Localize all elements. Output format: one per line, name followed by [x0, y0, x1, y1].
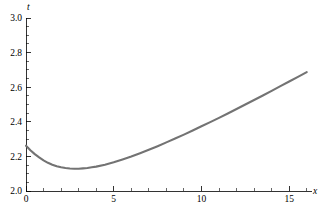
- chart-canvas: 051015 2.02.22.42.62.83.0 x t: [0, 0, 324, 214]
- x-tick-label: 15: [284, 194, 294, 204]
- y-tick-label: 2.4: [10, 117, 22, 127]
- y-tick-label: 3.0: [10, 13, 22, 23]
- x-axis-tick-labels: 051015: [24, 194, 295, 204]
- y-tick-label: 2.8: [10, 48, 22, 58]
- y-tick-label: 2.2: [10, 152, 22, 162]
- y-axis-title: t: [27, 2, 30, 12]
- x-tick-label: 0: [24, 194, 29, 204]
- x-axis-ticks: [26, 186, 307, 191]
- y-tick-label: 2.0: [10, 186, 22, 196]
- x-axis-title: x: [312, 186, 318, 196]
- y-axis-ticks: [26, 18, 31, 191]
- x-tick-label: 5: [111, 194, 116, 204]
- x-tick-label: 10: [197, 194, 207, 204]
- y-axis-tick-labels: 2.02.22.42.62.83.0: [10, 13, 22, 196]
- plot-container: 051015 2.02.22.42.62.83.0 x t: [0, 0, 324, 214]
- data-curve-series-0: [26, 72, 307, 169]
- y-tick-label: 2.6: [10, 83, 22, 93]
